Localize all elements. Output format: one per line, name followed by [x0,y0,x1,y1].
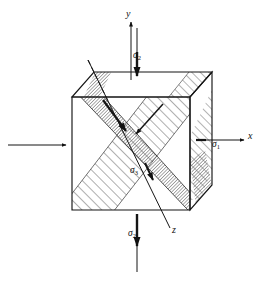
sigma-2-bottom-subscript: 2 [133,232,136,239]
sigma-3-label: σ3 [130,166,138,176]
stress-element-figure: y x z σ1 σ2 σ2 σ3 [0,0,266,285]
z-axis-label: z [172,225,176,235]
sigma-2-bottom-label: σ2 [128,229,136,239]
sigma-1-label: σ1 [212,140,220,150]
sigma-3-subscript: 3 [135,169,138,176]
x-axis-label: x [248,131,252,141]
sigma-2-top-label: σ2 [133,51,141,61]
diagram-canvas [0,0,266,285]
sigma-1-subscript: 1 [217,143,220,150]
sigma-2-top-subscript: 2 [138,54,141,61]
y-axis-label: y [126,9,130,19]
